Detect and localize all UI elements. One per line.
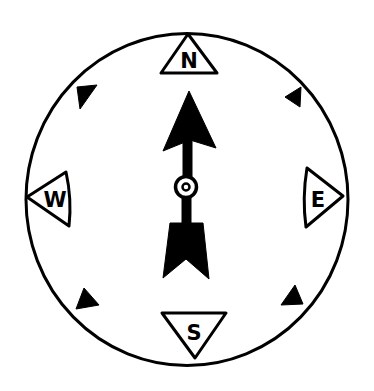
north-label: N	[180, 49, 198, 73]
needle-shaft-lower	[182, 196, 191, 226]
west-label: W	[43, 188, 66, 212]
northwest-marker-icon	[77, 85, 97, 109]
north-marker: N	[161, 34, 217, 73]
needle-tail-icon	[163, 223, 209, 279]
east-marker: E	[304, 168, 343, 227]
compass-svg: N S W E	[0, 0, 374, 391]
southeast-marker-icon	[281, 285, 303, 305]
west-marker: W	[27, 172, 70, 226]
needle-shaft-upper	[183, 138, 192, 179]
southwest-marker-icon	[76, 288, 99, 309]
compass-needle	[163, 91, 216, 279]
south-label: S	[186, 321, 201, 345]
compass-diagram: N S W E	[0, 0, 374, 391]
south-marker: S	[162, 313, 226, 358]
northeast-marker-icon	[285, 87, 301, 107]
east-label: E	[311, 188, 325, 212]
pivot-ring-icon	[176, 177, 197, 198]
